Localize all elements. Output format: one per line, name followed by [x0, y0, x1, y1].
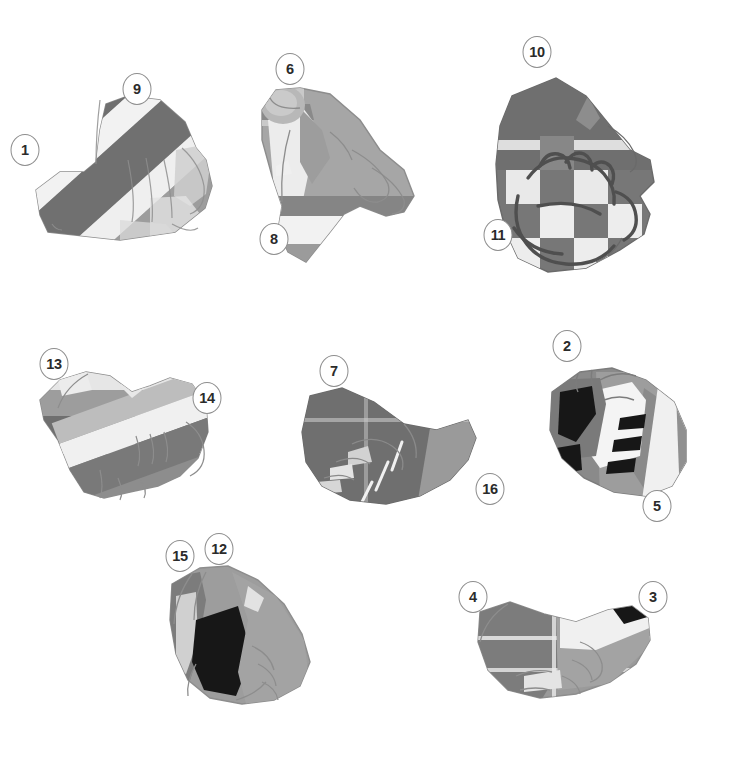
- callout-label: 12: [211, 541, 227, 557]
- callout-7[interactable]: 7: [320, 355, 349, 387]
- callout-9[interactable]: 9: [123, 73, 152, 105]
- callout-label: 3: [649, 589, 657, 605]
- callout-16[interactable]: 16: [476, 473, 505, 505]
- callout-1[interactable]: 1: [11, 134, 40, 166]
- callout-label: 15: [172, 548, 188, 564]
- callout-11[interactable]: 11: [484, 219, 513, 251]
- glove-bottom-left: [168, 566, 310, 704]
- callout-label: 14: [199, 390, 215, 406]
- callout-label: 16: [482, 481, 498, 497]
- glove-mid-center: [300, 386, 478, 506]
- callout-label: 13: [46, 356, 62, 372]
- glove-mid-left: [20, 362, 249, 501]
- callout-label: 1: [21, 142, 29, 158]
- callout-label: 10: [529, 44, 545, 60]
- callout-label: 11: [491, 227, 506, 243]
- figure-plate: 1 9 6 8 10 11 13 14 7 16 2 5 15 12 4 3: [0, 0, 735, 777]
- callout-label: 7: [330, 363, 338, 379]
- callout-label: 2: [563, 338, 571, 354]
- callout-label: 8: [270, 231, 278, 247]
- callout-6[interactable]: 6: [276, 53, 305, 85]
- callout-13[interactable]: 13: [40, 348, 69, 380]
- callout-15[interactable]: 15: [166, 540, 195, 572]
- glove-mid-right: [544, 368, 692, 500]
- callout-12[interactable]: 12: [205, 533, 234, 565]
- glove-top-right: [490, 78, 660, 272]
- callout-label: 5: [653, 498, 661, 514]
- glove-illustrations: [0, 0, 735, 777]
- callout-3[interactable]: 3: [639, 581, 668, 613]
- glove-bottom-right: [468, 574, 662, 702]
- callout-4[interactable]: 4: [459, 581, 488, 613]
- callout-10[interactable]: 10: [523, 36, 552, 68]
- callout-label: 4: [469, 589, 477, 605]
- callout-5[interactable]: 5: [643, 490, 672, 522]
- callout-label: 9: [133, 81, 141, 97]
- callout-8[interactable]: 8: [260, 223, 289, 255]
- callout-14[interactable]: 14: [193, 382, 222, 414]
- callout-label: 6: [286, 61, 294, 77]
- callout-2[interactable]: 2: [553, 330, 582, 362]
